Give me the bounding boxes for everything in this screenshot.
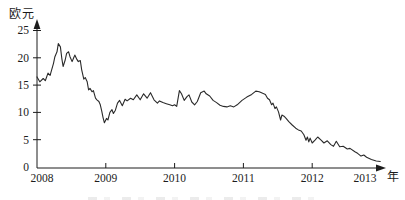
y-axis-unit-label: 欧元 (9, 8, 35, 20)
euro-price-line-chart-figure: 0510152025200820092010201120122013 欧元 年 (0, 0, 405, 200)
x-tick-label: 2011 (232, 172, 255, 184)
y-tick-label: 20 (18, 52, 30, 64)
cropped-caption-remnant (88, 197, 323, 200)
x-axis-arrow (376, 165, 386, 172)
x-tick-label: 2008 (31, 172, 54, 184)
x-tick-label: 2012 (301, 172, 324, 184)
y-tick-label: 25 (18, 24, 30, 36)
y-tick-label: 5 (23, 134, 29, 146)
price-series-line (37, 44, 380, 162)
y-tick-label: 10 (18, 106, 30, 118)
x-tick-label: 2010 (163, 172, 186, 184)
x-axis-unit-label: 年 (387, 171, 399, 183)
y-tick-label: 0 (23, 161, 29, 173)
line-chart: 0510152025200820092010201120122013 (0, 0, 405, 200)
x-tick-label: 2009 (94, 172, 117, 184)
y-tick-label: 15 (18, 79, 30, 91)
x-tick-label: 2013 (354, 172, 377, 184)
